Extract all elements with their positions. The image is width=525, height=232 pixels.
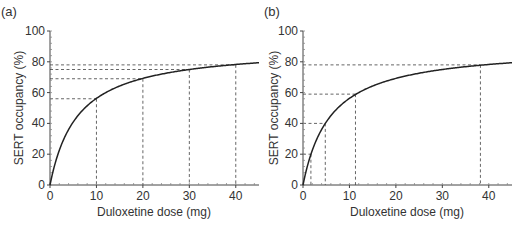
y-tick-label: 20 <box>32 147 46 161</box>
y-axis-title: SERT occupancy (%) <box>12 51 26 165</box>
y-tick-label: 80 <box>285 55 299 69</box>
panel-label: (b) <box>264 4 280 19</box>
panel-a: (a) Duloxetine dose (mg) SERT occupancy … <box>1 4 259 219</box>
y-tick-label: 80 <box>32 55 46 69</box>
x-tick-label: 0 <box>47 189 54 203</box>
y-tick-label: 0 <box>38 178 45 192</box>
y-axis-title: SERT occupancy (%) <box>267 51 281 165</box>
x-tick-label: 40 <box>229 189 243 203</box>
panel-label: (a) <box>1 4 17 19</box>
y-tick-label: 20 <box>285 147 299 161</box>
x-tick-label: 10 <box>90 189 104 203</box>
y-tick-label: 60 <box>285 86 299 100</box>
x-tick-label: 20 <box>136 189 150 203</box>
x-axis-title: Duloxetine dose (mg) <box>97 205 211 219</box>
y-tick-label: 60 <box>32 86 46 100</box>
y-tick-label: 40 <box>32 116 46 130</box>
figure: (a) Duloxetine dose (mg) SERT occupancy … <box>0 0 525 232</box>
x-tick-label: 30 <box>183 189 197 203</box>
y-tick-label: 100 <box>278 24 298 38</box>
x-tick-label: 20 <box>389 189 403 203</box>
y-tick-label: 40 <box>285 116 299 130</box>
panel-b: (b) Duloxetine dose (mg) SERT occupancy … <box>264 4 512 219</box>
x-tick-label: 10 <box>343 189 357 203</box>
x-tick-label: 30 <box>436 189 450 203</box>
y-tick-label: 0 <box>291 178 298 192</box>
y-tick-label: 100 <box>25 24 45 38</box>
x-axis-title: Duloxetine dose (mg) <box>350 205 464 219</box>
occupancy-curve <box>50 63 259 185</box>
x-tick-label: 0 <box>300 189 307 203</box>
x-tick-label: 40 <box>482 189 496 203</box>
